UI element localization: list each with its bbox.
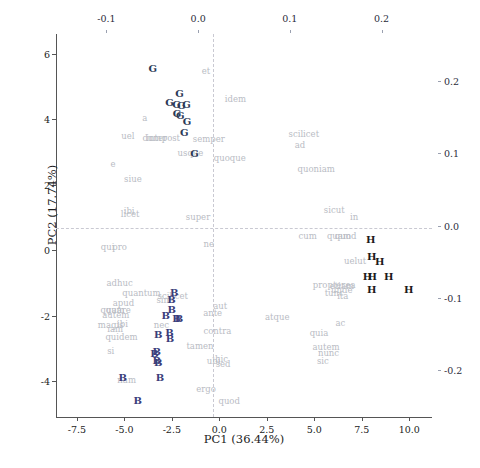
right-axis-tick	[438, 81, 441, 82]
score-point-b: B	[166, 334, 174, 344]
score-point-g: G	[175, 89, 184, 99]
loading-label: quoque	[214, 154, 246, 163]
score-point-g: G	[183, 117, 192, 127]
loading-label: ante	[203, 309, 222, 318]
score-point-g: G	[190, 149, 199, 159]
y-axis-title: PC2 (17.74%)	[45, 165, 59, 245]
loading-label: idem	[225, 95, 246, 104]
loading-label: a	[142, 114, 147, 123]
loading-label: quantum	[122, 289, 160, 298]
score-point-g: G	[182, 100, 191, 110]
x-axis-title: PC1 (36.44%)	[204, 432, 284, 446]
x-tick-label: 5.0	[307, 424, 322, 435]
y-tick	[52, 54, 56, 55]
loading-label: ibi	[124, 207, 135, 216]
loading-label: atque	[265, 313, 289, 322]
loading-label: uel	[121, 132, 134, 141]
top-axis-tick-label: -0.1	[97, 13, 115, 24]
y-tick-label: 4	[30, 114, 50, 125]
score-point-b: B	[156, 373, 164, 383]
loading-label: quidem	[105, 333, 137, 342]
x-axis-line	[56, 417, 432, 418]
loading-label: sicut	[324, 206, 345, 215]
loading-label: ergo	[196, 385, 216, 394]
loading-label: sed	[216, 360, 231, 369]
right-axis-tick	[438, 298, 441, 299]
right-axis-tick-label: 0.0	[444, 220, 459, 231]
top-axis-tick	[382, 30, 383, 33]
x-tick-label: 10.0	[399, 424, 420, 435]
loading-label: post	[162, 134, 180, 143]
score-point-b: B	[133, 396, 141, 406]
y-tick-label: 0	[30, 245, 50, 256]
loading-label: e	[110, 160, 115, 169]
loading-label: pro	[112, 243, 127, 252]
score-point-h: H	[375, 257, 384, 267]
score-point-b: B	[119, 373, 127, 383]
score-point-h: H	[367, 285, 376, 295]
loading-label: semper	[193, 135, 225, 144]
score-point-h: H	[384, 272, 393, 282]
loading-label: adhuc	[107, 279, 133, 288]
loading-label: quia	[310, 328, 329, 337]
loading-label: ne	[204, 240, 215, 249]
right-axis-tick-label: 0.2	[444, 75, 459, 86]
pca-biplot: -7.5-5.0-2.50.02.55.07.510.06420-2-4-0.1…	[0, 0, 480, 468]
x-tick	[77, 417, 78, 421]
x-tick-label: 7.5	[354, 424, 369, 435]
y-tick	[52, 381, 56, 382]
x-tick	[267, 417, 268, 421]
loading-label: quoniam	[297, 165, 334, 174]
loading-label: cum	[298, 232, 316, 241]
loading-label: tamen	[186, 341, 213, 350]
loading-label: ad	[295, 140, 306, 149]
right-axis-tick-label: -0.2	[444, 365, 462, 376]
loading-label: super	[186, 212, 210, 221]
loading-label: quod	[335, 232, 356, 241]
y-tick	[52, 250, 56, 251]
loading-label: in	[350, 213, 358, 222]
top-axis-tick	[106, 30, 107, 33]
top-axis-tick	[290, 30, 291, 33]
right-axis-tick	[438, 153, 441, 154]
right-axis-tick	[438, 226, 441, 227]
score-point-b: B	[154, 358, 162, 368]
loading-label: ac	[336, 318, 346, 327]
top-axis-tick	[198, 30, 199, 33]
score-point-g: G	[149, 64, 158, 74]
x-tick	[219, 417, 220, 421]
score-point-g: G	[180, 128, 189, 138]
top-axis-tick-label: 0.0	[191, 13, 206, 24]
y-tick	[52, 316, 56, 317]
right-axis-tick-label: 0.1	[444, 148, 459, 159]
x-tick	[314, 417, 315, 421]
score-point-h: H	[366, 235, 375, 245]
x-tick-label: -5.0	[115, 424, 133, 435]
loading-label: quod	[218, 397, 239, 406]
y-tick	[52, 119, 56, 120]
score-point-b: B	[154, 330, 162, 340]
x-tick	[172, 417, 173, 421]
x-tick-label: -2.5	[163, 424, 181, 435]
loading-label: sic	[317, 357, 329, 366]
loading-label: siue	[124, 174, 142, 183]
loading-label: si	[107, 347, 114, 356]
x-tick	[362, 417, 363, 421]
top-axis-tick-label: 0.2	[374, 13, 389, 24]
score-point-h: H	[404, 285, 413, 295]
loading-label: et	[202, 67, 210, 76]
right-axis-tick-label: -0.1	[444, 292, 462, 303]
score-point-b: B	[175, 314, 183, 324]
x-tick	[409, 417, 410, 421]
x-tick	[124, 417, 125, 421]
y-tick-label: 6	[30, 48, 50, 59]
y-tick-label: -4	[30, 375, 50, 386]
right-axis-tick	[438, 370, 441, 371]
zero-horizontal-guide	[56, 228, 432, 229]
loading-label: scilicet	[289, 130, 320, 139]
y-tick-label: -2	[30, 310, 50, 321]
loading-label: uelut	[344, 256, 366, 265]
score-point-h: H	[367, 272, 376, 282]
loading-label: ita	[337, 292, 348, 301]
top-axis-tick-label: 0.1	[282, 13, 297, 24]
